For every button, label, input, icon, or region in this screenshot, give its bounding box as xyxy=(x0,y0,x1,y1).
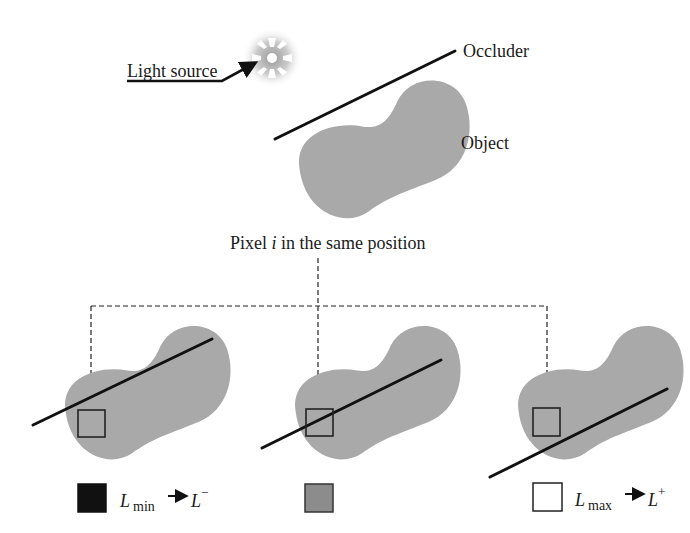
object-label: Object xyxy=(461,133,509,153)
shadow-diagram: Light source Occluder Object Pixel i in … xyxy=(0,0,690,533)
legend-mid xyxy=(305,484,333,512)
occluder-label: Occluder xyxy=(463,41,529,61)
legend-swatch-gray xyxy=(305,484,333,512)
object-shape xyxy=(65,326,230,460)
object-shape xyxy=(299,81,470,219)
panel-penumbra xyxy=(262,326,461,460)
legend-swatch-black xyxy=(78,484,106,512)
legend-max-text: Lmax xyxy=(574,490,612,513)
pixel-caption: Pixel i in the same position xyxy=(230,233,426,253)
light-source-label: Light source xyxy=(127,61,217,81)
panel-shadowed xyxy=(33,326,231,460)
sun-icon xyxy=(252,38,292,78)
light-source-callout: Light source xyxy=(127,61,255,81)
legend-min: Lmin L− xyxy=(78,484,208,514)
panel-lit xyxy=(490,326,684,477)
legend-max: Lmax L+ xyxy=(533,483,665,513)
legend-swatch-white xyxy=(533,483,562,511)
legend-min-text: Lmin xyxy=(119,491,155,514)
legend-max-target: L+ xyxy=(647,484,665,510)
legend-min-target: L− xyxy=(190,485,208,511)
light-source xyxy=(242,28,302,88)
